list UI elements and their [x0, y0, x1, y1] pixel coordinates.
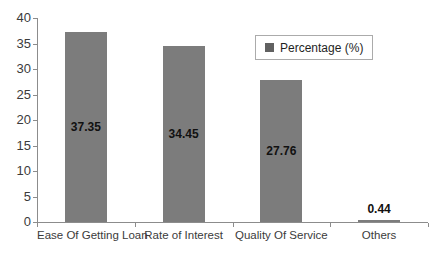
y-axis-tick-label: 20 [1, 113, 31, 127]
legend: Percentage (%) [255, 35, 373, 60]
category-label: Others [330, 228, 428, 243]
legend-label: Percentage (%) [280, 41, 363, 55]
y-axis-tick [33, 69, 37, 70]
category-label: Quality Of Service [233, 228, 331, 243]
y-axis-tick-label: 35 [1, 37, 31, 51]
y-axis-line [37, 18, 38, 222]
y-axis-tick [33, 18, 37, 19]
y-axis-tick [33, 44, 37, 45]
bar-chart: 051015202530354037.35Ease Of Getting Loa… [0, 0, 441, 254]
bar-others [358, 220, 400, 222]
y-axis-tick [33, 146, 37, 147]
x-axis-tick [233, 223, 234, 227]
x-axis-tick [37, 223, 38, 227]
plot-area: 051015202530354037.35Ease Of Getting Loa… [0, 0, 441, 254]
y-axis-tick-label: 10 [1, 164, 31, 178]
bar-value-label: 37.35 [45, 120, 127, 134]
y-axis-tick [33, 95, 37, 96]
bar-value-label: 0.44 [338, 202, 420, 216]
y-axis-tick-label: 25 [1, 88, 31, 102]
x-axis-tick [135, 223, 136, 227]
y-axis-tick-label: 40 [1, 11, 31, 25]
x-axis-tick [330, 223, 331, 227]
y-axis-tick-label: 0 [1, 215, 31, 229]
category-label: Rate of Interest [135, 228, 233, 243]
x-axis-tick [428, 223, 429, 227]
y-axis-tick [33, 197, 37, 198]
y-axis-tick-label: 15 [1, 139, 31, 153]
y-axis-tick [33, 171, 37, 172]
y-axis-tick-label: 30 [1, 62, 31, 76]
y-axis-tick-label: 5 [1, 190, 31, 204]
legend-marker-icon [265, 43, 274, 52]
y-axis-tick [33, 120, 37, 121]
bar-value-label: 27.76 [240, 144, 322, 158]
bar-value-label: 34.45 [143, 127, 225, 141]
category-label: Ease Of Getting Loan [37, 228, 135, 243]
